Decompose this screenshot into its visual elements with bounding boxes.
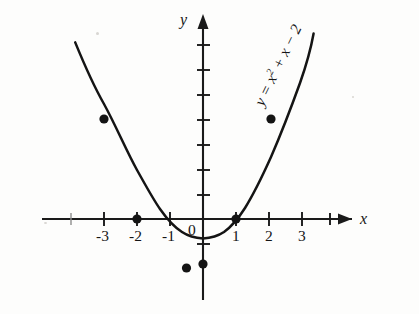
data-point-y-intercept <box>198 259 207 268</box>
x-axis-label: x <box>360 211 367 227</box>
data-point-two-4 <box>266 114 275 123</box>
data-point-root-one <box>231 214 240 223</box>
x-tick-label-neg3: -3 <box>96 228 109 244</box>
data-point-vertex <box>182 263 191 272</box>
x-tick-label-two: 2 <box>265 228 273 244</box>
figure-canvas: -3 -2 -1 0 1 2 3 x y y = x2 + x − 2 <box>0 0 419 314</box>
x-tick-label-three: 3 <box>298 228 306 244</box>
data-point-neg3-4 <box>99 114 108 123</box>
x-tick-label-zero: 0 <box>188 222 196 238</box>
y-axis-label: y <box>180 12 187 28</box>
x-tick-label-one: 1 <box>232 228 240 244</box>
y-axis-arrowhead <box>198 14 209 29</box>
parabola-plot <box>0 0 419 314</box>
x-axis-arrowhead <box>338 214 352 225</box>
x-tick-label-neg1: -1 <box>162 228 175 244</box>
x-tick-label-neg2: -2 <box>129 228 142 244</box>
data-point-root-neg2 <box>132 214 141 223</box>
